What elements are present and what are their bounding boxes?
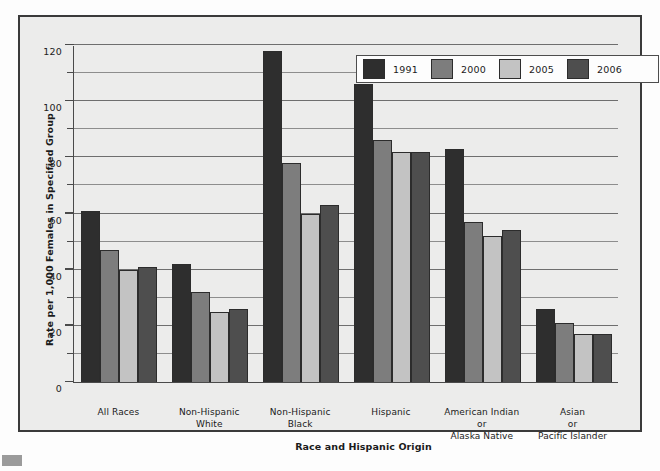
chart-figure-frame: 020406080100120 Rate per 1,000 Females i… (18, 15, 642, 432)
bar (464, 222, 483, 382)
y-axis-tick-minor (67, 297, 74, 298)
bar (593, 334, 612, 382)
x-axis-category-label-line: Non-Hispanic (255, 406, 346, 418)
bar (536, 309, 555, 382)
bar (138, 267, 157, 382)
chart-legend: 1991200020052006 (356, 55, 659, 83)
y-axis-tick-major (65, 100, 74, 102)
x-axis-category-label-line: or (436, 418, 527, 430)
x-axis-category-label-line: Alaska Native (436, 430, 527, 442)
bar (119, 270, 138, 382)
bar (445, 149, 464, 382)
bar (81, 211, 100, 382)
x-axis-category-label-line: Asian (527, 406, 618, 418)
bar-group (445, 46, 521, 382)
legend-entry: 1991 (363, 59, 418, 79)
legend-entry: 2005 (499, 59, 554, 79)
y-axis-tick-major (65, 44, 74, 46)
y-axis-tick-minor (67, 72, 74, 73)
y-axis-tick-minor (67, 353, 74, 354)
y-axis-title: Rate per 1,000 Females in Specified Grou… (41, 61, 57, 398)
x-axis-category-label-line: Pacific Islander (527, 430, 618, 442)
bar (320, 205, 339, 382)
gridline-major (74, 44, 618, 45)
x-axis-category-label-line: American Indian (436, 406, 527, 418)
y-axis-tick-major (65, 381, 74, 383)
x-axis-category-label: All Races (73, 406, 164, 418)
bar (555, 323, 574, 382)
bar (282, 163, 301, 382)
plot-area: 020406080100120 (73, 46, 618, 383)
legend-swatch (363, 59, 385, 79)
legend-label: 2006 (597, 64, 622, 75)
footnote-marker (2, 455, 22, 466)
y-axis-tick-minor (67, 241, 74, 242)
bar (301, 214, 320, 383)
bar-group (536, 46, 612, 382)
x-axis-category-label-line: Non-Hispanic (164, 406, 255, 418)
y-axis-tick-major (65, 156, 74, 158)
legend-label: 2000 (461, 64, 486, 75)
legend-swatch (431, 59, 453, 79)
x-axis-category-label: Non-HispanicBlack (255, 406, 346, 430)
x-axis-category-label-line: All Races (73, 406, 164, 418)
bar (229, 309, 248, 382)
bar-group (81, 46, 157, 382)
legend-entry: 2000 (431, 59, 486, 79)
bar (191, 292, 210, 382)
bar (574, 334, 593, 382)
x-axis-category-label: Hispanic (346, 406, 437, 418)
legend-entry: 2006 (567, 59, 622, 79)
y-axis-tick-minor (67, 128, 74, 129)
legend-label: 2005 (529, 64, 554, 75)
bar (502, 230, 521, 382)
x-axis-category-label: AsianorPacific Islander (527, 406, 618, 442)
legend-swatch (499, 59, 521, 79)
legend-swatch (567, 59, 589, 79)
bar (354, 84, 373, 382)
bar (392, 152, 411, 382)
x-axis-category-label: American IndianorAlaska Native (436, 406, 527, 442)
bar (263, 51, 282, 382)
bar (411, 152, 430, 382)
bar (483, 236, 502, 382)
bar (100, 250, 119, 382)
x-axis-category-label-line: White (164, 418, 255, 430)
bar (373, 140, 392, 382)
x-axis-category-label: Non-HispanicWhite (164, 406, 255, 430)
y-axis-tick-major (65, 268, 74, 270)
bar-group (172, 46, 248, 382)
y-axis-tick-major (65, 212, 74, 214)
bar-group (354, 46, 430, 382)
bar-group (263, 46, 339, 382)
x-axis-category-label-line: Black (255, 418, 346, 430)
x-axis-category-label-line: Hispanic (346, 406, 437, 418)
legend-label: 1991 (393, 64, 418, 75)
x-axis-title: Race and Hispanic Origin (91, 441, 636, 452)
bar (210, 312, 229, 382)
x-axis-category-label-line: or (527, 418, 618, 430)
y-axis-tick-major (65, 324, 74, 326)
bar (172, 264, 191, 382)
y-axis-tick-minor (67, 184, 74, 185)
